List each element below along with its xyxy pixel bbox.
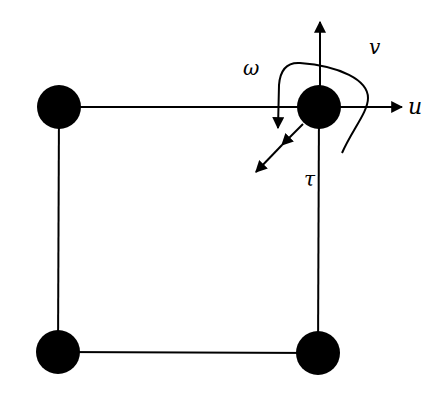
edge-bottom [58,352,318,353]
tau-arrow-segment-1 [282,124,303,145]
element-dof-diagram: u v ω τ [0,0,448,396]
label-tau: τ [304,167,316,191]
node-bottom-left [36,330,80,374]
edge-left [58,107,59,352]
edge-right [318,107,319,353]
label-v: v [369,35,381,59]
label-u: u [408,94,422,119]
node-bottom-right [296,331,340,375]
label-omega: ω [243,56,259,80]
node-top-right [297,85,341,129]
tau-arrow-segment-2 [256,145,282,172]
node-top-left [37,85,81,129]
